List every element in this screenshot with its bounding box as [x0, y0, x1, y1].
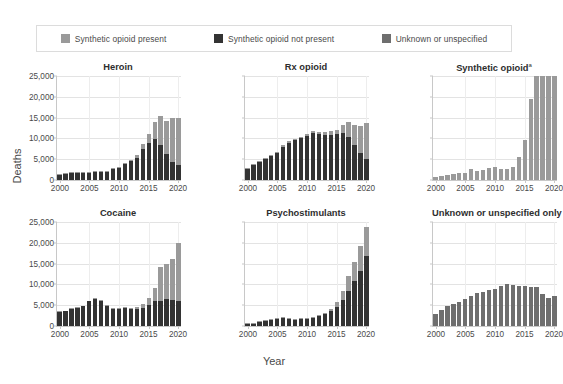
bar[interactable]: [439, 222, 444, 326]
bar[interactable]: [499, 222, 504, 326]
bar[interactable]: [69, 76, 74, 180]
bar[interactable]: [329, 222, 334, 326]
bar[interactable]: [311, 222, 316, 326]
bar[interactable]: [135, 222, 140, 326]
bar[interactable]: [257, 76, 262, 180]
bar[interactable]: [117, 76, 122, 180]
bar[interactable]: [269, 222, 274, 326]
bar[interactable]: [552, 222, 557, 326]
bar[interactable]: [469, 76, 474, 180]
bar[interactable]: [87, 76, 92, 180]
bar[interactable]: [129, 222, 134, 326]
bar[interactable]: [263, 222, 268, 326]
bar[interactable]: [75, 222, 80, 326]
bar[interactable]: [487, 222, 492, 326]
bar[interactable]: [257, 222, 262, 326]
bar[interactable]: [135, 76, 140, 180]
bar[interactable]: [263, 76, 268, 180]
bar[interactable]: [457, 222, 462, 326]
bar[interactable]: [57, 76, 62, 180]
bar[interactable]: [176, 222, 181, 326]
bar[interactable]: [511, 222, 516, 326]
bar[interactable]: [487, 76, 492, 180]
bar[interactable]: [546, 222, 551, 326]
bar[interactable]: [87, 222, 92, 326]
bar[interactable]: [523, 76, 528, 180]
bar[interactable]: [281, 76, 286, 180]
bar[interactable]: [481, 76, 486, 180]
bar[interactable]: [93, 222, 98, 326]
bar[interactable]: [317, 76, 322, 180]
bar[interactable]: [147, 222, 152, 326]
bar[interactable]: [57, 222, 62, 326]
bar[interactable]: [287, 222, 292, 326]
bar[interactable]: [293, 222, 298, 326]
bar[interactable]: [534, 76, 539, 180]
bar[interactable]: [299, 76, 304, 180]
bar[interactable]: [341, 76, 346, 180]
bar[interactable]: [170, 76, 175, 180]
bar[interactable]: [93, 76, 98, 180]
bar[interactable]: [81, 76, 86, 180]
bar[interactable]: [433, 222, 438, 326]
bar[interactable]: [105, 222, 110, 326]
bar[interactable]: [305, 76, 310, 180]
bar[interactable]: [317, 222, 322, 326]
bar[interactable]: [69, 222, 74, 326]
bar[interactable]: [517, 222, 522, 326]
bar[interactable]: [523, 222, 528, 326]
bar[interactable]: [457, 76, 462, 180]
bar[interactable]: [311, 76, 316, 180]
bar[interactable]: [323, 222, 328, 326]
bar[interactable]: [129, 76, 134, 180]
bar[interactable]: [251, 76, 256, 180]
legend-item-not_present[interactable]: Synthetic opioid not present: [212, 34, 336, 44]
bar[interactable]: [517, 76, 522, 180]
bar[interactable]: [499, 76, 504, 180]
bar[interactable]: [493, 76, 498, 180]
bar[interactable]: [445, 76, 450, 180]
bar[interactable]: [352, 76, 357, 180]
bar[interactable]: [281, 222, 286, 326]
bar[interactable]: [534, 222, 539, 326]
bar[interactable]: [335, 76, 340, 180]
bar[interactable]: [111, 222, 116, 326]
bar[interactable]: [305, 222, 310, 326]
bar[interactable]: [439, 76, 444, 180]
bar[interactable]: [529, 76, 534, 180]
bar[interactable]: [346, 222, 351, 326]
legend-item-present[interactable]: Synthetic opioid present: [59, 34, 169, 44]
bar[interactable]: [63, 222, 68, 326]
bar[interactable]: [123, 222, 128, 326]
bar[interactable]: [358, 76, 363, 180]
bar[interactable]: [451, 76, 456, 180]
bar[interactable]: [99, 76, 104, 180]
bar[interactable]: [158, 222, 163, 326]
bar[interactable]: [511, 76, 516, 180]
bar[interactable]: [335, 222, 340, 326]
bar[interactable]: [505, 76, 510, 180]
bar[interactable]: [99, 222, 104, 326]
bar[interactable]: [111, 76, 116, 180]
bar[interactable]: [475, 222, 480, 326]
bar[interactable]: [352, 222, 357, 326]
bar[interactable]: [463, 76, 468, 180]
bar[interactable]: [275, 222, 280, 326]
bar[interactable]: [445, 222, 450, 326]
bar[interactable]: [364, 222, 369, 326]
bar[interactable]: [153, 76, 158, 180]
bar[interactable]: [323, 76, 328, 180]
bar[interactable]: [481, 222, 486, 326]
bar[interactable]: [75, 76, 80, 180]
bar[interactable]: [269, 76, 274, 180]
bar[interactable]: [141, 76, 146, 180]
bar[interactable]: [123, 76, 128, 180]
bar[interactable]: [117, 222, 122, 326]
bar[interactable]: [245, 76, 250, 180]
bar[interactable]: [341, 222, 346, 326]
bar[interactable]: [164, 76, 169, 180]
bar[interactable]: [81, 222, 86, 326]
bar[interactable]: [552, 76, 557, 180]
bar[interactable]: [141, 222, 146, 326]
bar[interactable]: [105, 76, 110, 180]
